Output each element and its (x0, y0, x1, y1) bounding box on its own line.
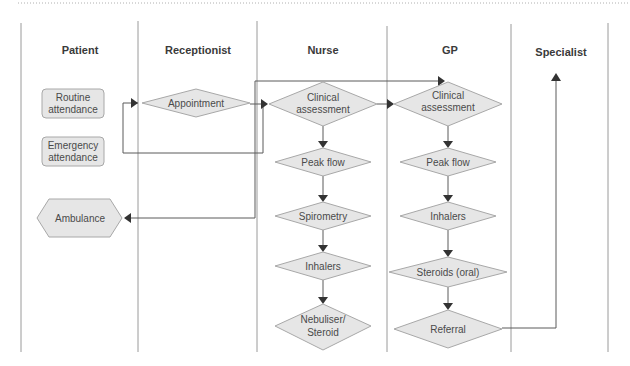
node-label: attendance (48, 104, 98, 115)
arrow-down-icon (318, 195, 328, 202)
node-ambulance[interactable]: Ambulance (37, 199, 122, 237)
node-label: Emergency (48, 140, 99, 151)
node-label: Peak flow (426, 157, 470, 168)
arrow-down-icon (318, 297, 328, 304)
node-gp-peak-flow[interactable]: Peak flow (400, 148, 496, 176)
lane-title-nurse: Nurse (307, 44, 338, 56)
arrow-down-icon (318, 245, 328, 252)
node-emergency-attendance[interactable]: Emergency attendance (42, 137, 104, 166)
node-gp-inhalers[interactable]: Inhalers (400, 202, 496, 230)
node-label: Ambulance (55, 213, 105, 224)
node-label: Spirometry (299, 211, 347, 222)
node-label: Steroids (oral) (417, 267, 480, 278)
node-label: assessment (421, 102, 475, 113)
arrow-up-icon (551, 73, 561, 81)
node-nurse-clinical-assessment[interactable]: Clinical assessment (269, 82, 377, 126)
arrow-down-icon (443, 141, 453, 148)
arrow-right-icon (131, 98, 138, 108)
node-label: Inhalers (305, 261, 341, 272)
node-label: Referral (430, 324, 466, 335)
node-label: attendance (48, 152, 98, 163)
node-label: Peak flow (301, 157, 345, 168)
lane-title-gp: GP (442, 44, 458, 56)
arrow-down-icon (443, 303, 453, 310)
node-label: Clinical (307, 92, 339, 103)
node-label: assessment (296, 104, 350, 115)
node-label: Nebuliser/ (300, 314, 345, 325)
node-nurse-inhalers[interactable]: Inhalers (275, 252, 371, 280)
node-nurse-spirometry[interactable]: Spirometry (275, 202, 371, 230)
arrow-right-icon (261, 99, 268, 109)
connector-patient-to-appointment (123, 103, 138, 153)
node-gp-referral[interactable]: Referral (394, 310, 502, 348)
node-nurse-peak-flow[interactable]: Peak flow (275, 148, 371, 176)
arrow-down-icon (443, 195, 453, 202)
lane-title-receptionist: Receptionist (165, 44, 231, 56)
swimlane-diagram: Patient Receptionist Nurse GP Specialist… (0, 0, 630, 366)
lane-title-specialist: Specialist (535, 46, 587, 58)
node-label: Appointment (168, 98, 224, 109)
node-label: Steroid (307, 327, 339, 338)
node-label: Clinical (432, 90, 464, 101)
arrow-left-icon (124, 213, 131, 223)
lane-title-patient: Patient (62, 44, 99, 56)
node-appointment[interactable]: Appointment (142, 89, 250, 117)
connector-referral-to-specialist (502, 80, 556, 328)
node-routine-attendance[interactable]: Routine attendance (42, 89, 104, 118)
arrow-down-icon (318, 141, 328, 148)
node-label: Routine (56, 92, 91, 103)
node-nurse-nebuliser-steroid[interactable]: Nebuliser/ Steroid (275, 304, 371, 350)
node-label: Inhalers (430, 211, 466, 222)
node-gp-steroids-oral[interactable]: Steroids (oral) (389, 257, 507, 287)
node-gp-clinical-assessment[interactable]: Clinical assessment (394, 82, 502, 126)
arrow-down-icon (443, 250, 453, 257)
